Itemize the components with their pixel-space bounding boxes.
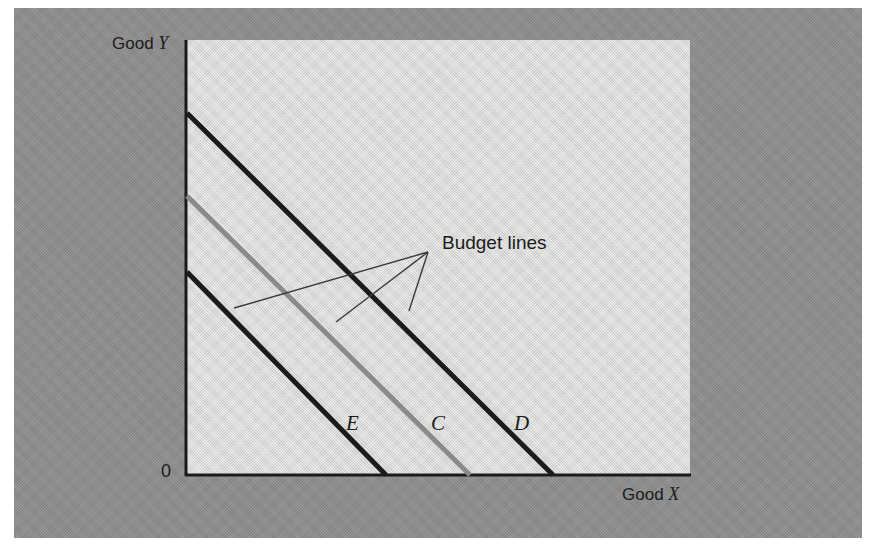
x-axis-label-variable: X [668, 484, 679, 504]
budget-line-label-e: E [346, 411, 359, 436]
y-axis-label: Good Y [112, 33, 168, 54]
budget-line-c [187, 196, 470, 475]
budget-lines-annotation-label: Budget lines [442, 232, 547, 254]
budget-line-label-c: C [431, 411, 445, 436]
x-axis-label: Good X [622, 484, 679, 505]
pointer-line-to-d [409, 252, 428, 311]
y-axis-label-text: Good [112, 34, 158, 53]
chart-vector-layer [0, 0, 878, 552]
pointer-line-to-c [336, 252, 428, 322]
budget-line-label-d: D [514, 411, 529, 436]
figure-page: Good Y Good X 0 E C D Budget lines [0, 0, 878, 552]
budget-line-d [187, 113, 553, 475]
budget-line-e [187, 272, 386, 475]
pointer-line-to-e [234, 252, 428, 308]
y-axis-label-variable: Y [158, 33, 168, 53]
origin-label: 0 [161, 461, 171, 482]
x-axis-label-text: Good [622, 485, 668, 504]
